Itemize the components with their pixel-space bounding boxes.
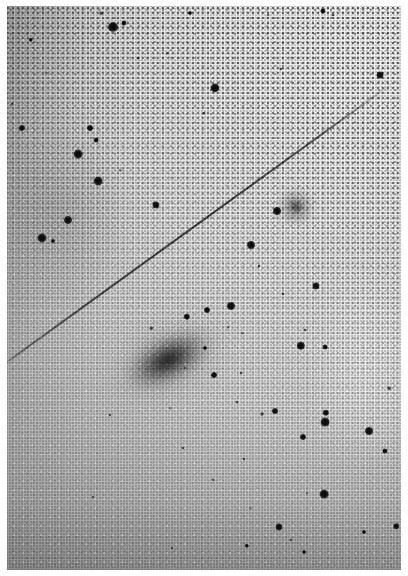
plate-emulsion-area	[7, 6, 401, 570]
emulsion-grain-coarse-lower-left	[7, 6, 401, 570]
print-border-right	[401, 0, 408, 576]
astronomical-plate-figure	[0, 0, 408, 576]
print-border-left	[0, 0, 7, 576]
print-border-bottom	[0, 570, 408, 576]
